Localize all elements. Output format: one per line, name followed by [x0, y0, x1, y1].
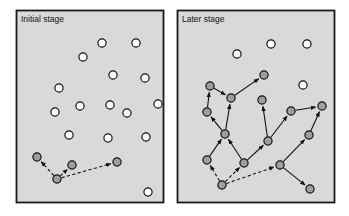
- node-filled: [305, 131, 313, 139]
- node-hollow: [79, 53, 87, 61]
- node-hollow: [142, 133, 150, 141]
- node-filled: [206, 82, 214, 90]
- node-filled: [221, 130, 229, 138]
- network-growth-figure: Initial stageLater stage: [0, 0, 349, 216]
- node-hollow: [98, 39, 106, 47]
- node-hollow: [55, 84, 63, 92]
- node-hollow: [154, 100, 162, 108]
- panel-later-stage: Later stage: [178, 11, 335, 203]
- node-hollow: [132, 39, 140, 47]
- node-hollow: [299, 81, 307, 89]
- node-hollow: [267, 40, 275, 48]
- node-hollow: [76, 102, 84, 110]
- node-filled: [203, 156, 211, 164]
- node-filled: [240, 159, 248, 167]
- node-hollow: [233, 50, 241, 58]
- node-filled: [264, 137, 272, 145]
- panel-border: [17, 11, 164, 203]
- node-filled: [276, 161, 284, 169]
- node-filled: [53, 175, 61, 183]
- panel-initial-stage: Initial stage: [17, 11, 164, 203]
- node-filled: [227, 94, 235, 102]
- node-hollow: [106, 101, 114, 109]
- node-filled: [258, 96, 266, 104]
- node-filled: [113, 158, 121, 166]
- node-filled: [287, 107, 295, 115]
- node-filled: [260, 71, 268, 79]
- node-hollow: [109, 71, 117, 79]
- node-hollow: [123, 109, 131, 117]
- node-hollow: [51, 108, 59, 116]
- node-filled: [218, 181, 226, 189]
- node-hollow: [303, 40, 311, 48]
- node-hollow: [65, 131, 73, 139]
- panel-title: Initial stage: [21, 14, 64, 24]
- node-filled: [306, 185, 314, 193]
- node-hollow: [104, 134, 112, 142]
- node-hollow: [144, 188, 152, 196]
- node-filled: [33, 153, 41, 161]
- node-filled: [68, 161, 76, 169]
- node-filled: [203, 108, 211, 116]
- node-filled: [318, 102, 326, 110]
- panel-title: Later stage: [182, 14, 225, 24]
- node-hollow: [141, 74, 149, 82]
